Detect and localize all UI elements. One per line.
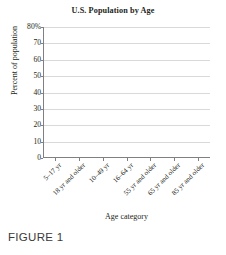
chart-title: U.S. Population by Age xyxy=(0,6,226,15)
y-axis-tick-label: 40 xyxy=(1,89,41,97)
y-axis-tick-label: 80% xyxy=(1,23,41,31)
y-axis-tick-labels: 01020304050607080% xyxy=(0,27,41,158)
y-axis-tick-label: 10 xyxy=(1,138,41,146)
y-axis-tick-label: 60 xyxy=(1,56,41,64)
figure-container: U.S. Population by Age Percent of popula… xyxy=(0,0,226,255)
y-axis-tick-label: 70 xyxy=(1,39,41,47)
x-axis-tick-labels: 5–17 yr18 yr and older10–49 yr16–64 yr55… xyxy=(0,158,226,214)
y-axis-tick-label: 20 xyxy=(1,121,41,129)
figure-caption: FIGURE 1 xyxy=(8,231,63,243)
y-axis-tick-label: 30 xyxy=(1,105,41,113)
x-axis-title: Age category xyxy=(43,212,210,221)
y-axis-tick-label: 50 xyxy=(1,72,41,80)
